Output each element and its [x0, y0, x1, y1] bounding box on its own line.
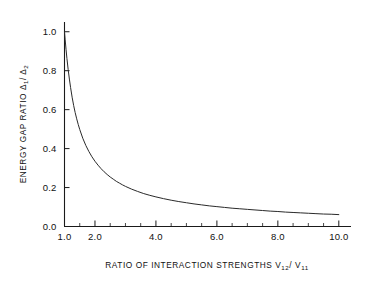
chart-canvas: 1.02.04.06.08.010.0 0.00.20.40.60.81.0 R… — [0, 0, 367, 283]
x-axis-tick-labels: 1.02.04.06.08.010.0 — [58, 231, 349, 242]
y-tick-label: 0.4 — [43, 143, 57, 154]
y-tick-label: 0.6 — [43, 104, 57, 115]
data-series-curve — [65, 32, 339, 215]
x-tick-label: 4.0 — [149, 231, 163, 242]
x-tick-label: 8.0 — [271, 231, 285, 242]
y-tick-label: 1.0 — [43, 26, 57, 37]
y-axis-label-group: ENERGY GAP RATIO Δ1/ Δ2 — [18, 65, 29, 184]
y-tick-label: 0.2 — [43, 182, 57, 193]
x-tick-label: 10.0 — [329, 231, 348, 242]
figure-chart-panel: 1.02.04.06.08.010.0 0.00.20.40.60.81.0 R… — [0, 0, 367, 283]
axes-group — [64, 22, 351, 227]
x-axis-label: RATIO OF INTERACTION STRENGTHS V12/ V11 — [105, 260, 308, 271]
y-tick-label: 0.8 — [43, 65, 57, 76]
y-axis-tick-labels: 0.00.20.40.60.81.0 — [43, 26, 57, 232]
x-tick-label: 1.0 — [58, 231, 72, 242]
y-axis-label: ENERGY GAP RATIO Δ1/ Δ2 — [18, 65, 29, 184]
x-tick-label: 2.0 — [88, 231, 102, 242]
y-tick-label: 0.0 — [43, 221, 57, 232]
x-tick-label: 6.0 — [210, 231, 224, 242]
x-axis-label-group: RATIO OF INTERACTION STRENGTHS V12/ V11 — [105, 260, 308, 271]
